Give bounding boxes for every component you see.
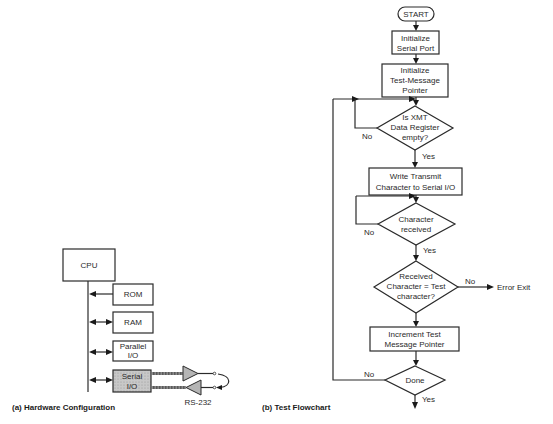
arrow-right-icon bbox=[487, 284, 494, 290]
parallel-io-block: Parallel I/O bbox=[89, 341, 153, 361]
arrow-down-icon bbox=[412, 162, 418, 168]
init-serial-port-step: Initialize Serial Port bbox=[392, 31, 439, 54]
decision-text: received bbox=[401, 225, 431, 234]
step-text: Test-Message bbox=[390, 76, 440, 85]
arrow-down-icon bbox=[413, 100, 419, 106]
yes-label: Yes bbox=[422, 152, 435, 161]
arrow-down-icon bbox=[412, 402, 418, 409]
arrow-left-icon bbox=[89, 319, 96, 325]
arrow-left-icon bbox=[89, 349, 96, 355]
decision-text: Done bbox=[405, 376, 425, 385]
increment-pointer-step: Increment Test Message Pointer bbox=[370, 327, 459, 351]
no-label: No bbox=[364, 370, 375, 379]
character-received-decision: Character received bbox=[378, 203, 455, 245]
done-decision: Done bbox=[385, 366, 445, 395]
arrow-left-icon bbox=[89, 291, 96, 297]
cpu-label: CPU bbox=[81, 261, 98, 270]
decision-text: Data Register bbox=[391, 123, 440, 132]
diagram-canvas: CPU ROM RAM Parallel I/O bbox=[0, 0, 553, 424]
step-text: Write Transmit bbox=[390, 172, 442, 181]
serial-io-label-2: I/O bbox=[127, 382, 138, 391]
arrow-left-icon bbox=[89, 377, 96, 383]
ram-block: RAM bbox=[89, 312, 153, 333]
decision-text: empty? bbox=[402, 133, 429, 142]
arrow-right-icon bbox=[106, 349, 113, 355]
decision-text: Character = Test bbox=[387, 282, 447, 291]
decision-text: Is XMT bbox=[402, 113, 427, 122]
arrow-down-icon bbox=[413, 360, 419, 366]
decision-text: character? bbox=[397, 292, 435, 301]
rs232-label: RS-232 bbox=[184, 398, 212, 407]
step-text: Pointer bbox=[402, 86, 428, 95]
hardware-caption: (a) Hardware Configuration bbox=[12, 403, 115, 412]
start-terminal: START bbox=[398, 7, 434, 21]
test-flowchart: START Initialize Serial Port Initialize … bbox=[262, 7, 531, 412]
arrow-right-icon bbox=[106, 319, 113, 325]
yes-label: Yes bbox=[423, 246, 436, 255]
no-label: No bbox=[362, 132, 373, 141]
decision-text: Character bbox=[398, 215, 433, 224]
xmt-empty-decision: Is XMT Data Register empty? bbox=[377, 106, 453, 150]
arrow-right-icon bbox=[106, 377, 113, 383]
step-text: Serial Port bbox=[397, 44, 435, 53]
loopback-arrow-icon bbox=[216, 385, 222, 390]
serial-io-label-1: Serial bbox=[122, 372, 143, 381]
decision-text: Received bbox=[399, 272, 432, 281]
hardware-configuration: CPU ROM RAM Parallel I/O bbox=[12, 249, 229, 412]
no-label: No bbox=[364, 228, 375, 237]
step-text: Message Pointer bbox=[384, 340, 444, 349]
rom-label: ROM bbox=[124, 290, 143, 299]
parallel-io-label-2: I/O bbox=[128, 351, 139, 360]
ram-label: RAM bbox=[124, 318, 142, 327]
receive-driver-icon bbox=[186, 380, 201, 395]
flowchart-caption: (b) Test Flowchart bbox=[262, 403, 331, 412]
rs232-loopback: RS-232 bbox=[151, 366, 229, 407]
yes-label: Yes bbox=[422, 395, 435, 404]
no-label: No bbox=[465, 277, 476, 286]
transmit-driver-icon bbox=[183, 366, 198, 381]
arrow-down-icon bbox=[413, 197, 419, 203]
parallel-io-label-1: Parallel bbox=[120, 342, 147, 351]
start-label: START bbox=[403, 10, 429, 19]
compare-character-decision: Received Character = Test character? bbox=[374, 261, 458, 313]
arrow-down-icon bbox=[413, 321, 419, 327]
serial-io-block: Serial I/O bbox=[89, 370, 151, 392]
step-text: Initialize bbox=[401, 34, 430, 43]
cpu-block: CPU bbox=[63, 249, 115, 281]
arrow-down-icon bbox=[413, 58, 419, 64]
arrow-down-icon bbox=[413, 255, 419, 261]
error-exit-label: Error Exit bbox=[497, 283, 531, 292]
write-transmit-step: Write Transmit Character to Serial I/O bbox=[369, 168, 462, 195]
step-text: Character to Serial I/O bbox=[376, 183, 456, 192]
step-text: Initialize bbox=[401, 66, 430, 75]
init-pointer-step: Initialize Test-Message Pointer bbox=[382, 64, 448, 97]
rom-block: ROM bbox=[89, 284, 153, 305]
step-text: Increment Test bbox=[388, 330, 441, 339]
arrow-down-icon bbox=[413, 25, 419, 31]
